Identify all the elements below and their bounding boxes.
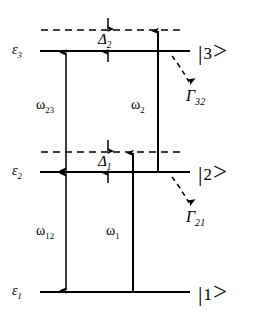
ket-angle-bracket: >: [213, 278, 227, 305]
ket-number: 3: [202, 44, 213, 63]
ket-label-1: |1>: [198, 279, 227, 304]
decay-symbol: Γ: [186, 208, 195, 225]
ket-label-2: |2>: [198, 159, 227, 184]
energy-subscript: 1: [18, 291, 23, 301]
transition-subscript: 23: [45, 105, 54, 115]
transition-symbol: ω: [106, 223, 115, 238]
transition-label-omega-23: ω23: [36, 98, 54, 114]
ket-number: 2: [202, 165, 213, 184]
transition-symbol: ω: [36, 97, 45, 112]
ket-angle-bracket: >: [213, 37, 227, 64]
transition-label-omega-2: ω2: [131, 98, 145, 114]
decay-subscript: 32: [195, 96, 205, 107]
energy-level-diagram: ε3 ε2 ε1 |3> |2> |1> Δ2 Δ1 ω23 ω12 ω2 ω1…: [0, 0, 256, 316]
detuning-subscript: 2: [107, 40, 112, 50]
ket-number: 1: [202, 285, 213, 304]
detuning-symbol: Δ: [98, 31, 107, 47]
decay-subscript: 21: [195, 217, 205, 228]
decay-symbol: Γ: [186, 87, 195, 104]
decay-label-gamma-21: Γ21: [186, 209, 205, 228]
ket-label-3: |3>: [198, 38, 227, 63]
decay-label-gamma-32: Γ32: [186, 88, 205, 107]
transition-subscript: 1: [115, 231, 120, 241]
transition-subscript: 12: [45, 231, 54, 241]
ket-bar: |: [198, 40, 202, 65]
decay-arrow-gamma-32: [172, 56, 189, 82]
decay-arrow-gamma-21: [172, 177, 189, 203]
transition-label-omega-1: ω1: [106, 224, 120, 240]
transition-label-omega-12: ω12: [36, 224, 54, 240]
energy-subscript: 2: [18, 171, 23, 181]
transition-symbol: ω: [131, 97, 140, 112]
detuning-label-delta-1: Δ1: [98, 154, 112, 172]
ket-bar: |: [198, 161, 202, 186]
ket-bar: |: [198, 281, 202, 306]
transition-symbol: ω: [36, 223, 45, 238]
energy-label-3: ε3: [12, 43, 22, 59]
energy-label-1: ε1: [12, 284, 22, 300]
detuning-symbol: Δ: [98, 153, 107, 169]
energy-subscript: 3: [18, 50, 23, 60]
detuning-label-delta-2: Δ2: [98, 32, 112, 50]
transition-subscript: 2: [140, 105, 145, 115]
detuning-subscript: 1: [107, 162, 112, 172]
energy-label-2: ε2: [12, 164, 22, 180]
ket-angle-bracket: >: [213, 158, 227, 185]
